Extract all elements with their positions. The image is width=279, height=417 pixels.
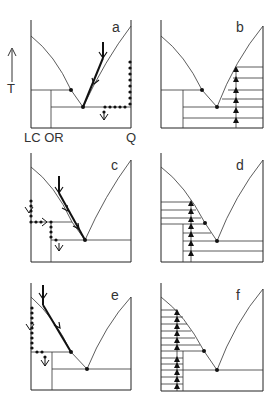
open-down-arrow-icon <box>41 358 49 366</box>
liquidus-right <box>217 289 263 370</box>
panel-e: e <box>26 283 131 390</box>
panel-label: b <box>236 19 244 35</box>
open-down-arrow-icon <box>55 243 63 251</box>
liquidus-point <box>200 88 204 92</box>
panel-b: b <box>161 19 263 128</box>
composition-label-left: LC OR <box>24 130 64 145</box>
panel-f: f <box>161 283 263 391</box>
panel-label: d <box>236 157 244 173</box>
liquidus-point <box>202 349 206 353</box>
panel-label: c <box>111 157 118 173</box>
temperature-axis: T <box>7 48 16 96</box>
panel-frame <box>31 20 131 128</box>
panel-d: d <box>161 153 263 262</box>
eutectic-point <box>215 105 219 109</box>
panel-label: e <box>111 287 119 303</box>
liquidus-right <box>83 26 131 107</box>
panel-frame <box>161 20 263 128</box>
liquidus-right <box>85 160 131 240</box>
liquidus-right <box>217 26 263 107</box>
dotted-path <box>102 60 131 113</box>
open-down-arrow-icon <box>100 112 108 120</box>
tie-lines <box>161 310 200 384</box>
liquidus-point <box>203 221 207 225</box>
phase-diagram-figure: T a LC OR Q b <box>0 0 279 417</box>
eutectic-point <box>215 239 219 243</box>
path-segment <box>59 193 85 240</box>
panel-label: a <box>112 19 120 35</box>
path-arrow-icon <box>54 322 60 328</box>
liquidus-left <box>31 36 83 107</box>
panel-label: f <box>236 287 240 303</box>
eutectic-point <box>215 368 219 372</box>
panel-a: a LC OR Q <box>24 19 136 145</box>
liquidus-right <box>87 297 131 369</box>
composition-label-right: Q <box>126 130 136 145</box>
panel-c: c <box>25 153 131 262</box>
liquidus-left <box>161 36 217 107</box>
temperature-label: T <box>7 81 15 96</box>
dotted-path <box>30 306 46 358</box>
dotted-path <box>29 199 57 241</box>
liquidus-point <box>69 88 73 92</box>
eutectic-point <box>85 367 89 371</box>
liquidus-left <box>161 297 217 370</box>
path-segment <box>43 305 71 352</box>
panel-frame <box>161 153 263 262</box>
